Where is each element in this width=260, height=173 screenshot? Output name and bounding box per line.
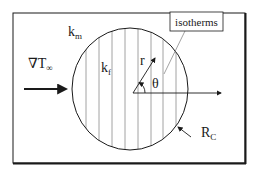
- gradient-label: ∇T∞: [28, 56, 53, 73]
- isotherms-label: isotherms: [175, 16, 218, 28]
- theta-label: θ: [152, 76, 159, 91]
- matrix-conductivity-label: km: [68, 24, 82, 41]
- inclusion-conductivity-label: kf: [101, 60, 111, 77]
- radius-label: RC: [201, 125, 216, 142]
- theta-arc-icon: [139, 83, 145, 94]
- radius-leader-arrow: [178, 127, 191, 137]
- isotherm-lines: [86, 20, 176, 160]
- diagram-canvas: isotherms km kf ∇T∞ r θ RC: [0, 0, 260, 173]
- r-label: r: [140, 53, 145, 68]
- isotherms-callout: isotherms: [164, 12, 223, 74]
- inclusion-circle: [72, 28, 188, 150]
